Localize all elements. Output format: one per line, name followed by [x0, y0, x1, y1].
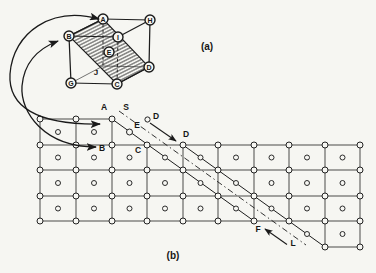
lattice-atom [322, 193, 328, 199]
lattice-center-atom [340, 232, 345, 237]
lattice-atom [180, 193, 186, 199]
lattice-atom [180, 142, 186, 148]
cube-vertex-label-J: J [94, 68, 98, 77]
lattice-atom [357, 218, 363, 224]
lattice-atom [109, 193, 115, 199]
cube-vertex-label-B: B [66, 33, 71, 40]
lattice-center-atom [305, 206, 310, 211]
lattice-atom [357, 142, 363, 148]
atom-E [127, 129, 133, 135]
lattice-atom [109, 116, 115, 122]
lattice-center-atom [340, 155, 345, 160]
lattice-atom [251, 167, 257, 173]
lattice-atom [144, 193, 150, 199]
lattice-atom [251, 193, 257, 199]
lattice-atom [251, 142, 257, 148]
lattice-label-A: A [101, 102, 107, 112]
lattice-atom [215, 193, 221, 199]
lattice-center-atom [305, 181, 310, 186]
lattice-label-D: D [153, 111, 159, 121]
lattice-atom [322, 244, 328, 250]
lattice-atom [286, 142, 292, 148]
lattice-atom [215, 142, 221, 148]
lattice-atom [286, 218, 292, 224]
lattice-atom [73, 193, 79, 199]
lattice-atom [37, 218, 43, 224]
panel-a-caption: (a) [201, 41, 213, 52]
lattice-center-atom [127, 155, 132, 160]
lattice-center-atom [92, 155, 97, 160]
lattice-center-atom [56, 155, 61, 160]
lattice-center-atom [127, 181, 132, 186]
lattice-center-atom [269, 206, 274, 211]
lattice-atom [144, 142, 150, 148]
lattice-label-F: F [255, 224, 260, 234]
lattice-center-atom [92, 130, 97, 135]
lattice-center-atom [340, 181, 345, 186]
lattice-label-L: L [290, 238, 295, 248]
lattice-center-atom [234, 206, 239, 211]
atom-D-upper [145, 117, 150, 122]
lattice-label-D: D [183, 129, 189, 139]
lattice-center-atom [269, 155, 274, 160]
cube-vertex-label-I: I [117, 34, 119, 41]
lattice-center-atom [92, 206, 97, 211]
lattice-label-E: E [134, 120, 140, 130]
lattice-atom [286, 193, 292, 199]
lattice-center-atom [56, 181, 61, 186]
lattice-atom [37, 142, 43, 148]
figure-page: ASDEDBCFL JAHBIEDGC (a) (b) [0, 0, 376, 273]
lattice-center-atom [56, 130, 61, 135]
lattice-center-atom [163, 206, 168, 211]
lattice-atom [180, 167, 186, 173]
lattice-atom [357, 167, 363, 173]
lattice-center-atom [234, 181, 239, 186]
lattice-atom [357, 244, 363, 250]
lattice-center-atom [305, 155, 310, 160]
lattice-center-atom [198, 155, 203, 160]
lattice-center-atom [127, 206, 132, 211]
lattice-center-atom [269, 181, 274, 186]
lattice-atom [322, 142, 328, 148]
lattice-label-C: C [135, 145, 141, 155]
lattice-atom [180, 218, 186, 224]
lattice-label-S: S [123, 102, 129, 112]
lattice-center-atom [92, 181, 97, 186]
lattice-atom [109, 167, 115, 173]
lattice-atom [73, 167, 79, 173]
lattice-atom [73, 218, 79, 224]
lattice-atom [144, 218, 150, 224]
lattice-center-atom [198, 181, 203, 186]
lattice-center-atom [234, 155, 239, 160]
lattice-center-atom [163, 181, 168, 186]
cube-vertex-label-C: C [114, 81, 119, 88]
lattice-atom [109, 142, 115, 148]
lattice-center-atom [305, 232, 310, 237]
dislocation-slip-figure: ASDEDBCFL JAHBIEDGC (a) (b) [0, 0, 376, 273]
lattice-atom [322, 218, 328, 224]
cube-vertex-label-H: H [147, 17, 152, 24]
cube-vertex-label-D: D [146, 64, 151, 71]
lattice-atom [144, 167, 150, 173]
panel-b-caption: (b) [167, 250, 180, 261]
cube-vertex-label-E: E [107, 49, 112, 56]
lattice-atom [286, 167, 292, 173]
lattice-atom [322, 167, 328, 173]
lattice-label-B: B [99, 143, 105, 153]
lattice-atom [73, 116, 79, 122]
cube-vertex-label-A: A [100, 16, 105, 23]
lattice-atom [37, 193, 43, 199]
lattice-atom [109, 218, 115, 224]
cube-vertex-label-G: G [68, 80, 74, 87]
lattice-atom [215, 218, 221, 224]
lattice-atom [357, 193, 363, 199]
lattice-center-atom [163, 155, 168, 160]
lattice-center-atom [340, 206, 345, 211]
lattice-atom [37, 167, 43, 173]
lattice-center-atom [56, 206, 61, 211]
lattice-center-atom [198, 206, 203, 211]
lattice-atom [215, 167, 221, 173]
